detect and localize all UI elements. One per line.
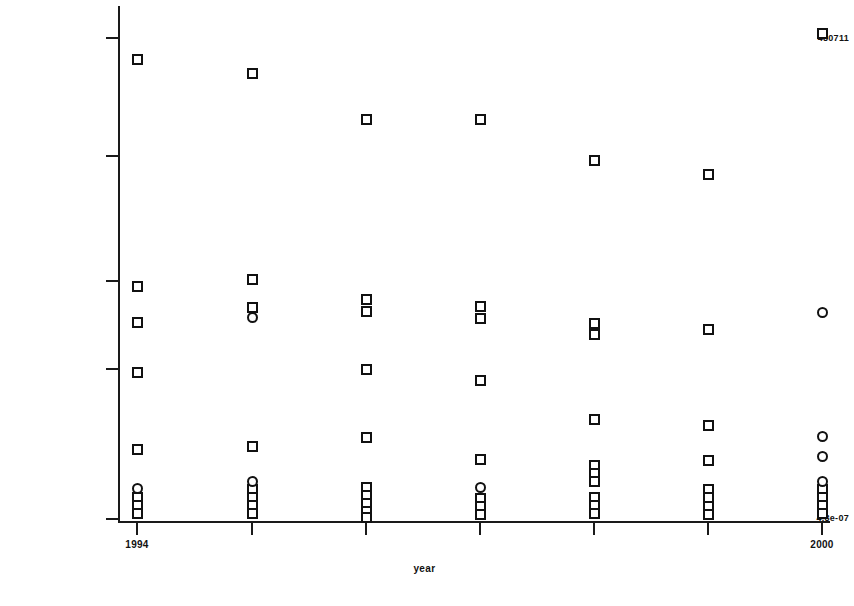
data-point-square: [703, 324, 714, 335]
data-point-square: [703, 420, 714, 431]
data-point-square: [361, 512, 372, 523]
data-point-circle: [817, 431, 828, 442]
data-point-square: [817, 508, 828, 519]
data-point-square: [475, 114, 486, 125]
data-point-square: [247, 274, 258, 285]
data-point-circle: [132, 483, 143, 494]
data-point-square: [132, 54, 143, 65]
data-point-square: [132, 281, 143, 292]
data-point-square: [589, 329, 600, 340]
data-point-square: [247, 441, 258, 452]
data-point-square: [817, 28, 828, 39]
data-point-square: [475, 301, 486, 312]
data-point-square: [361, 432, 372, 443]
data-point-circle: [247, 476, 258, 487]
data-point-square: [589, 155, 600, 166]
data-point-square: [475, 313, 486, 324]
data-point-square: [475, 454, 486, 465]
data-point-square: [589, 508, 600, 519]
data-point-square: [132, 444, 143, 455]
data-point-square: [475, 375, 486, 386]
data-point-square: [589, 414, 600, 425]
data-point-square: [132, 367, 143, 378]
data-point-circle: [817, 451, 828, 462]
data-point-square: [361, 364, 372, 375]
data-point-square: [132, 508, 143, 519]
data-point-square: [247, 68, 258, 79]
data-point-circle: [247, 312, 258, 323]
data-point-circle: [817, 307, 828, 318]
data-point-square: [703, 455, 714, 466]
data-point-square: [247, 508, 258, 519]
data-point-square: [361, 114, 372, 125]
data-point-circle: [475, 482, 486, 493]
data-point-square: [361, 306, 372, 317]
data-point-square: [361, 294, 372, 305]
data-point-square: [475, 509, 486, 520]
data-point-square: [589, 318, 600, 329]
data-point-square: [247, 302, 258, 313]
data-point-square: [703, 509, 714, 520]
data-point-square: [703, 169, 714, 180]
data-point-square: [589, 476, 600, 487]
data-point-square: [132, 317, 143, 328]
data-point-circle: [817, 476, 828, 487]
